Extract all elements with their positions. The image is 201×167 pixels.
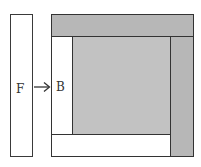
- inner-square: [72, 36, 171, 135]
- bottom-strip: [51, 134, 171, 157]
- arrow-right-icon: [33, 80, 51, 94]
- right-strip: [170, 36, 194, 157]
- label-f: F: [16, 83, 24, 95]
- label-b: B: [56, 81, 65, 93]
- top-strip: [51, 14, 194, 37]
